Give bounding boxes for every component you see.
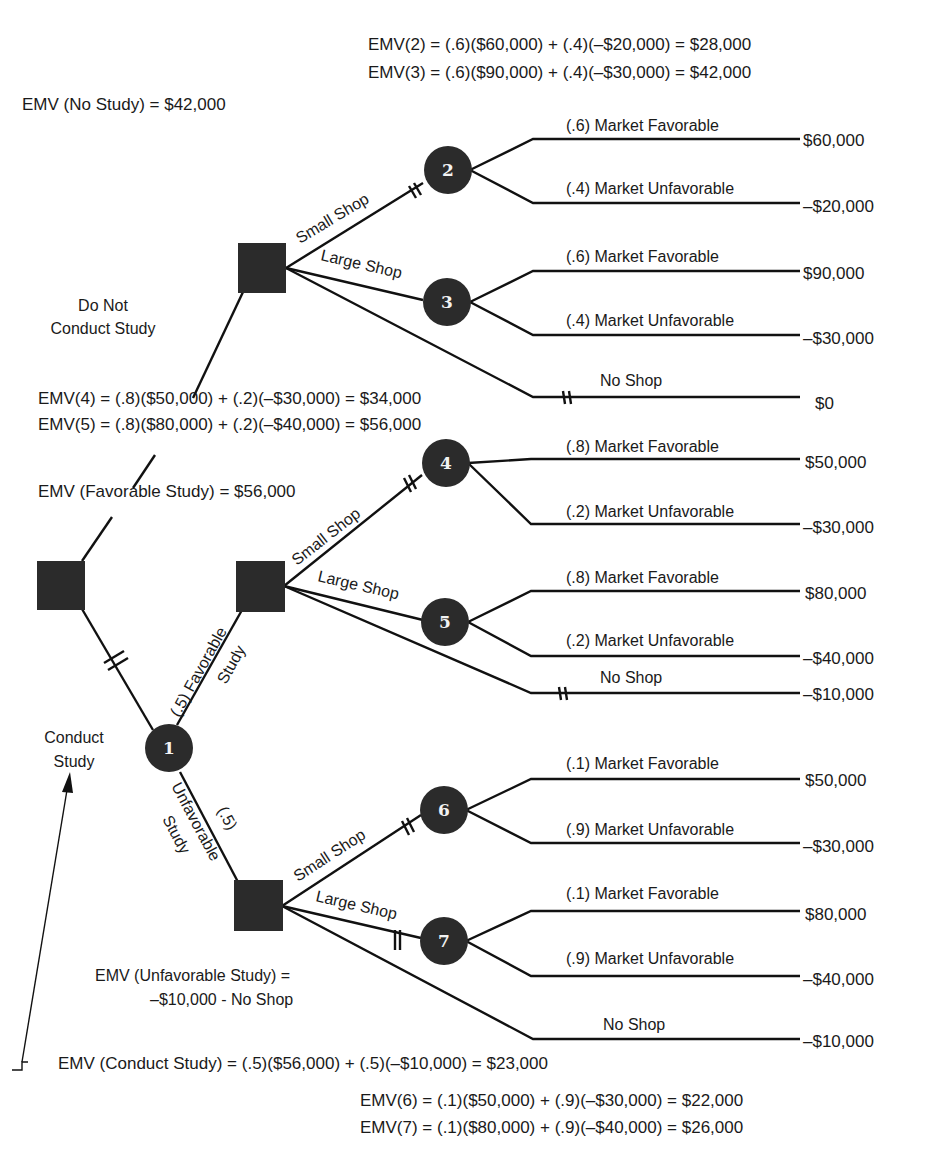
chance-node-2[interactable]: 2 — [424, 146, 472, 194]
decision-node-favorable[interactable] — [236, 561, 285, 612]
payoff-value: –$40,000 — [803, 970, 874, 989]
decision-node-root[interactable] — [37, 561, 85, 610]
arrow-tail — [12, 1062, 28, 1070]
outcomes-node-3: (.6) Market Favorable $90,000 (.4) Marke… — [566, 248, 874, 348]
edge-n5-favorable — [468, 591, 800, 622]
payoff-value: $80,000 — [805, 584, 866, 603]
emv-favorable-study: EMV (Favorable Study) = $56,000 — [38, 482, 296, 501]
payoff-value: –$30,000 — [803, 518, 874, 537]
emv2-equation: EMV(2) = (.6)($60,000) + (.4)(–$20,000) … — [368, 35, 751, 54]
outcome-label: (.1) Market Favorable — [566, 885, 719, 902]
edge-segment — [193, 292, 243, 398]
cut-mark — [569, 391, 571, 404]
edge-large-shop-top — [286, 268, 423, 300]
outcome-label: (.9) Market Unfavorable — [566, 821, 734, 838]
payoff-no-shop-fav: –$10,000 — [803, 685, 874, 704]
arrow-line — [22, 790, 67, 1062]
edge-n7-favorable — [466, 911, 800, 941]
payoff-value: –$40,000 — [803, 649, 874, 668]
edge-root-no-study — [82, 517, 112, 561]
emv5-equation: EMV(5) = (.8)($80,000) + (.2)(–$40,000) … — [38, 415, 421, 434]
emv6-equation: EMV(6) = (.1)($50,000) + (.9)(–$30,000) … — [360, 1091, 743, 1110]
outcome-label: (.2) Market Unfavorable — [566, 632, 734, 649]
edge-no-shop-unfav — [282, 906, 800, 1039]
cut-mark — [563, 391, 565, 404]
edge-root-conduct-study — [82, 609, 153, 730]
outcome-label: (.6) Market Favorable — [566, 117, 719, 134]
cut-mark — [559, 687, 561, 700]
payoff-no-shop-unfav: –$10,000 — [803, 1032, 874, 1051]
payoff-value: $50,000 — [805, 453, 866, 472]
emv-unfavorable-study-1: EMV (Unfavorable Study) = — [95, 967, 290, 984]
chance-node-6[interactable]: 6 — [420, 786, 468, 834]
emv4-equation: EMV(4) = (.8)($50,000) + (.2)(–$30,000) … — [38, 389, 421, 408]
emv7-equation: EMV(7) = (.1)($80,000) + (.9)(–$40,000) … — [360, 1118, 743, 1137]
chance-node-label: 7 — [438, 931, 450, 951]
edge-small-shop-fav — [284, 475, 422, 586]
edge-n4-favorable — [468, 459, 800, 463]
chance-node-label: 3 — [441, 292, 453, 312]
emv-no-study: EMV (No Study) = $42,000 — [22, 95, 226, 114]
edge-n3-favorable — [470, 271, 800, 302]
chance-node-5[interactable]: 5 — [421, 598, 469, 646]
conduct-study-label-1: Conduct — [44, 729, 104, 746]
chance-node-3[interactable]: 3 — [423, 278, 471, 326]
small-shop-label-fav: Small Shop — [288, 505, 363, 569]
no-shop-label-fav: No Shop — [600, 669, 662, 686]
decision-node-no-study[interactable] — [238, 243, 286, 293]
outcomes-node-2: (.6) Market Favorable $60,000 (.4) Marke… — [566, 117, 874, 216]
chance-node-label: 6 — [438, 800, 450, 820]
arrow-head-icon — [62, 772, 73, 793]
cut-mark — [565, 687, 567, 700]
payoff-value: $60,000 — [803, 131, 864, 150]
outcome-label: (.9) Market Unfavorable — [566, 950, 734, 967]
chance-node-label: 5 — [439, 612, 451, 632]
chance-node-label: 2 — [442, 160, 454, 180]
chance-node-7[interactable]: 7 — [420, 917, 468, 965]
payoff-value: –$20,000 — [803, 197, 874, 216]
payoff-value: $90,000 — [803, 264, 864, 283]
tree-edges — [12, 139, 800, 1070]
outcome-label: (.8) Market Favorable — [566, 569, 719, 586]
no-shop-label-unfav: No Shop — [603, 1016, 665, 1033]
outcome-label: (.6) Market Favorable — [566, 248, 719, 265]
conduct-study-label-2: Study — [54, 753, 95, 770]
outcomes-node-4: (.8) Market Favorable $50,000 (.2) Marke… — [566, 438, 874, 537]
outcome-label: (.4) Market Unfavorable — [566, 312, 734, 329]
decision-tree-diagram: EMV(2) = (.6)($60,000) + (.4)(–$20,000) … — [0, 0, 931, 1165]
outcome-label: (.8) Market Favorable — [566, 438, 719, 455]
payoff-value: $80,000 — [805, 905, 866, 924]
chance-node-4[interactable]: 4 — [422, 439, 470, 487]
payoff-value: $50,000 — [805, 771, 866, 790]
chance-node-label: 4 — [440, 453, 452, 473]
do-not-conduct-label-1: Do Not — [78, 297, 128, 314]
emv-unfavorable-study-2: –$10,000 - No Shop — [150, 991, 293, 1008]
emv3-equation: EMV(3) = (.6)($90,000) + (.4)(–$30,000) … — [368, 63, 751, 82]
large-shop-label-top: Large Shop — [319, 246, 404, 281]
edge-no-shop-top — [286, 268, 800, 397]
outcome-label: (.4) Market Unfavorable — [566, 180, 734, 197]
do-not-conduct-label-2: Conduct Study — [51, 320, 156, 337]
edge-n6-favorable — [466, 779, 800, 810]
decision-node-unfavorable[interactable] — [234, 880, 283, 931]
unfavorable-prob-label: (.5) — [214, 803, 240, 832]
outcome-label: (.1) Market Favorable — [566, 755, 719, 772]
chance-node-1[interactable]: 1 — [145, 724, 193, 772]
edge-n2-favorable — [470, 139, 800, 170]
emv-conduct-study: EMV (Conduct Study) = (.5)($56,000) + (.… — [58, 1054, 548, 1073]
payoff-value: –$30,000 — [803, 837, 874, 856]
outcome-label: (.2) Market Unfavorable — [566, 503, 734, 520]
outcomes-node-6: (.1) Market Favorable $50,000 (.9) Marke… — [566, 755, 874, 856]
chance-node-label: 1 — [163, 738, 175, 758]
outcomes-node-5: (.8) Market Favorable $80,000 (.2) Marke… — [566, 569, 874, 668]
no-shop-label-top: No Shop — [600, 372, 662, 389]
edge-small-shop-unfav — [282, 815, 421, 906]
payoff-value: –$30,000 — [803, 329, 874, 348]
outcomes-node-7: (.1) Market Favorable $80,000 (.9) Marke… — [566, 885, 874, 989]
payoff-no-shop-top: $0 — [815, 394, 834, 413]
